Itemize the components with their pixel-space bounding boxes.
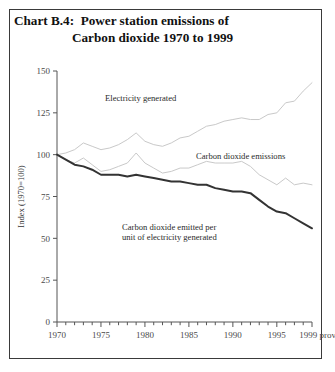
series-line <box>57 83 312 155</box>
y-tick-label: 100 <box>37 150 51 160</box>
x-tick-label: 1999 prov <box>299 330 335 340</box>
x-tick-label: 1970 <box>48 330 67 340</box>
y-tick-label: 50 <box>41 234 51 244</box>
x-tick-label: 1975 <box>92 330 111 340</box>
annotation-intensity-line-1: Carbon dioxide emitted per <box>122 222 216 232</box>
x-tick-label: 1990 <box>224 330 243 340</box>
series-line <box>57 155 312 229</box>
x-tick-label: 1985 <box>180 330 199 340</box>
line-chart: 0255075100125150197019751980198519901995… <box>0 0 335 372</box>
annotation-electricity: Electricity generated <box>105 93 177 103</box>
x-tick-label: 1995 <box>268 330 287 340</box>
y-tick-label: 150 <box>37 66 51 76</box>
annotation-emissions: Carbon dioxide emissions <box>196 151 286 161</box>
x-tick-label: 1980 <box>136 330 155 340</box>
y-tick-label: 75 <box>41 192 51 202</box>
y-tick-label: 0 <box>46 317 51 327</box>
plot-area: 0255075100125150197019751980198519901995… <box>0 0 335 372</box>
annotation-intensity-line-2: unit of electricity generated <box>122 232 217 242</box>
y-tick-label: 25 <box>41 275 51 285</box>
y-axis-label: Index (1970=100) <box>16 165 26 228</box>
y-tick-label: 125 <box>37 108 51 118</box>
